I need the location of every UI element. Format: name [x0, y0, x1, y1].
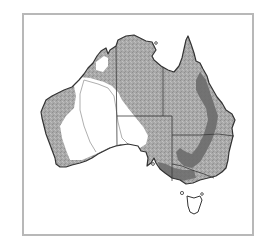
island-north — [155, 42, 158, 45]
island-flinders — [201, 193, 204, 196]
australia-map — [0, 0, 271, 246]
tasmania — [187, 196, 202, 214]
island-kangaroo — [152, 163, 155, 166]
island — [180, 191, 183, 194]
region-medium — [41, 35, 235, 184]
